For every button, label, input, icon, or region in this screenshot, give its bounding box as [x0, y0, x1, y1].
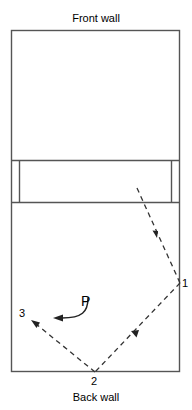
ray-one-to-two [95, 283, 180, 372]
point-label-1: 1 [182, 278, 188, 289]
point-label-p: P [81, 294, 90, 308]
point-label-2: 2 [91, 376, 97, 387]
room-ray-diagram: Front wall Back wall 1 2 3 P [0, 0, 192, 410]
back-wall-label: Back wall [0, 392, 192, 403]
front-wall-label: Front wall [0, 13, 192, 24]
point-label-3: 3 [19, 308, 25, 319]
ray-incoming-arrowhead [153, 231, 159, 239]
room-outline [12, 31, 180, 372]
p-curved-arrowhead [53, 315, 63, 322]
ray-two-to-three [36, 324, 95, 372]
diagram-canvas [0, 0, 192, 410]
ray-one-to-two-arrowhead [131, 330, 139, 338]
